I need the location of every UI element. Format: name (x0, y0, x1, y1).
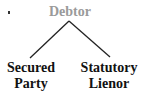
node-debtor: Debtor (44, 4, 96, 20)
node-debtor-label: Debtor (44, 4, 96, 20)
node-statutory-lienor: Statutory Lienor (78, 60, 140, 92)
node-secured-party: Secured Party (2, 60, 60, 92)
diagram-canvas: Debtor Secured Party Statutory Lienor (0, 0, 141, 94)
edge-debtor-to-statutory-lienor (69, 21, 110, 57)
node-secured-party-line-2: Party (2, 76, 60, 92)
node-statutory-lienor-line-1: Statutory (78, 60, 140, 76)
node-secured-party-line-1: Secured (2, 60, 60, 76)
edge-debtor-to-secured-party (30, 21, 69, 58)
node-statutory-lienor-line-2: Lienor (78, 76, 140, 92)
